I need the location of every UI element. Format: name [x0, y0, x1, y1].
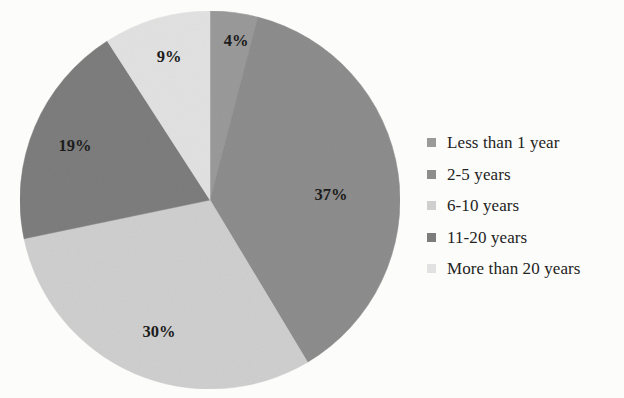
- legend-swatch-icon-6-10-years: [427, 201, 436, 210]
- slice-label-more-than-20-years: 9%: [157, 47, 182, 66]
- legend-item-6-10-years[interactable]: 6-10 years: [427, 190, 617, 222]
- slice-label-11-20-years: 19%: [59, 136, 92, 155]
- legend-swatch-icon-2-5-years: [427, 170, 436, 179]
- slice-label-6-10-years: 30%: [143, 322, 176, 341]
- slice-label-2-5-years: 37%: [315, 185, 348, 204]
- legend-item-more-than-20-years[interactable]: More than 20 years: [427, 253, 617, 285]
- legend-swatch-icon-11-20-years: [427, 233, 436, 242]
- legend-swatch-icon-less-than-1-year: [427, 138, 436, 147]
- slice-label-less-than-1-year: 4%: [224, 31, 249, 50]
- legend-item-2-5-years[interactable]: 2-5 years: [427, 159, 617, 191]
- chart-page: 4% 37% 30% 19% 9% Less than 1 year 2-5 y…: [0, 0, 624, 398]
- legend-label-less-than-1-year: Less than 1 year: [447, 134, 560, 151]
- legend-item-less-than-1-year[interactable]: Less than 1 year: [427, 127, 617, 159]
- legend-label-6-10-years: 6-10 years: [447, 197, 519, 214]
- chart-legend: Less than 1 year 2-5 years 6-10 years 11…: [427, 127, 617, 285]
- legend-label-more-than-20-years: More than 20 years: [447, 260, 581, 277]
- pie-chart-svg: 4% 37% 30% 19% 9%: [12, 4, 410, 396]
- legend-swatch-icon-more-than-20-years: [427, 264, 436, 273]
- legend-label-2-5-years: 2-5 years: [447, 166, 511, 183]
- legend-label-11-20-years: 11-20 years: [447, 229, 527, 246]
- pie-chart: 4% 37% 30% 19% 9%: [12, 4, 410, 396]
- legend-item-11-20-years[interactable]: 11-20 years: [427, 222, 617, 254]
